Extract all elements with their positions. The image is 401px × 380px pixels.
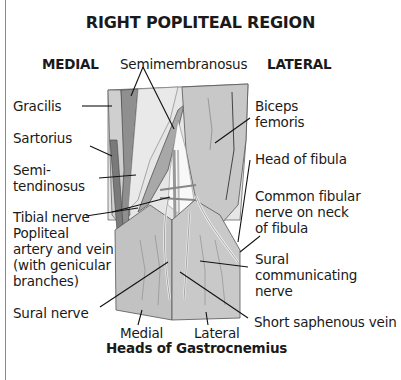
label-semitendinosus-2: tendinosus: [13, 178, 85, 194]
label-popliteal-1: Popliteal: [13, 225, 69, 241]
label-popliteal-2: artery and vein: [13, 241, 114, 257]
label-common-fibular-1: Common fibular: [255, 188, 361, 204]
label-sural-nerve: Sural nerve: [13, 305, 89, 321]
label-semimembranosus: Semimembranosus: [120, 56, 247, 72]
label-biceps-2: femoris: [255, 114, 304, 130]
label-biceps-1: Biceps: [255, 98, 298, 114]
label-short-saphenous-vein: Short saphenous vein: [254, 314, 397, 330]
label-sartorius: Sartorius: [13, 130, 72, 146]
label-gracilis: Gracilis: [13, 98, 61, 114]
label-sural-communicating-3: nerve: [255, 283, 293, 299]
label-semitendinosus-1: Semi-: [13, 162, 51, 178]
label-popliteal-3: (with genicular: [13, 257, 111, 273]
label-tibial-nerve: Tibial nerve: [13, 209, 90, 225]
label-common-fibular-3: of fibula: [255, 220, 308, 236]
label-head-of-fibula: Head of fibula: [255, 151, 347, 167]
label-sural-communicating-2: communicating: [255, 267, 357, 283]
label-heads-of-gastrocnemius: Heads of Gastrocnemius: [106, 340, 287, 356]
label-common-fibular-2: nerve on neck: [255, 204, 349, 220]
label-popliteal-4: branches): [13, 273, 79, 289]
label-gastrocnemius-medial: Medial: [120, 325, 163, 341]
label-sural-communicating-1: Sural: [255, 251, 289, 267]
label-gastrocnemius-lateral: Lateral: [194, 325, 240, 341]
